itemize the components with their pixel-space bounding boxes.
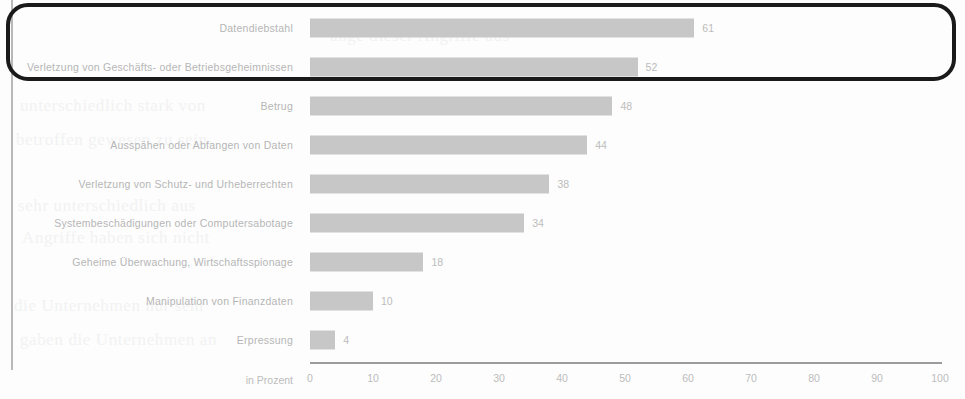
bar-row: Manipulation von Finanzdaten10 <box>0 281 965 320</box>
x-tick-label: 100 <box>931 372 949 384</box>
bar-value-label: 52 <box>646 61 658 73</box>
bar <box>310 291 373 310</box>
bar-track: 44 <box>310 135 940 154</box>
bar-value-label: 61 <box>702 22 714 34</box>
bar-track: 18 <box>310 252 940 271</box>
bar-category-label: Verletzung von Geschäfts- oder Betriebsg… <box>27 61 293 73</box>
x-tick-label: 90 <box>871 372 883 384</box>
bar-row: Verletzung von Geschäfts- oder Betriebsg… <box>0 47 965 86</box>
bar-value-label: 4 <box>343 334 349 346</box>
x-tick-label: 70 <box>745 372 757 384</box>
bar-category-label: Betrug <box>261 100 293 112</box>
bar <box>310 252 423 271</box>
bar-row: Datendiebstahl61 <box>0 8 965 47</box>
bar <box>310 18 694 37</box>
x-axis-title: in Prozent <box>246 374 293 386</box>
bar-track: 4 <box>310 330 940 349</box>
x-tick-label: 20 <box>430 372 442 384</box>
bar-category-label: Systembeschädigungen oder Computersabota… <box>54 217 293 229</box>
bar-row: Erpressung4 <box>0 320 965 359</box>
x-tick-label: 30 <box>493 372 505 384</box>
bar-track: 38 <box>310 174 940 193</box>
bar-track: 52 <box>310 57 940 76</box>
bar <box>310 330 335 349</box>
bar-chart: Datendiebstahl61Verletzung von Geschäfts… <box>0 0 965 399</box>
bar-category-label: Erpressung <box>237 334 293 346</box>
bar-row: Systembeschädigungen oder Computersabota… <box>0 203 965 242</box>
x-tick-label: 60 <box>682 372 694 384</box>
x-tick-label: 50 <box>619 372 631 384</box>
bar-category-label: Ausspähen oder Abfangen von Daten <box>110 139 293 151</box>
bar-row: Betrug48 <box>0 86 965 125</box>
bar <box>310 135 587 154</box>
x-tick-label: 80 <box>808 372 820 384</box>
bar-category-label: Geheime Überwachung, Wirtschaftsspionage <box>72 256 293 268</box>
bar <box>310 213 524 232</box>
bar-value-label: 18 <box>431 256 443 268</box>
bar-value-label: 10 <box>381 295 393 307</box>
bar-track: 48 <box>310 96 940 115</box>
bar-row: Ausspähen oder Abfangen von Daten44 <box>0 125 965 164</box>
x-axis-ticks: 0102030405060708090100 <box>310 372 940 390</box>
bar <box>310 174 549 193</box>
x-tick-label: 40 <box>556 372 568 384</box>
bar-category-label: Verletzung von Schutz- und Urheberrechte… <box>78 178 293 190</box>
bar-row-list: Datendiebstahl61Verletzung von Geschäfts… <box>0 8 965 359</box>
bar-value-label: 44 <box>595 139 607 151</box>
bar-track: 61 <box>310 18 940 37</box>
bar-value-label: 34 <box>532 217 544 229</box>
bar <box>310 96 612 115</box>
x-tick-label: 0 <box>307 372 313 384</box>
x-axis-line <box>310 362 942 364</box>
bar <box>310 57 638 76</box>
chart-page: ange dieser Angriffe aus unterschiedlich… <box>0 0 965 399</box>
bar-value-label: 48 <box>620 100 632 112</box>
bar-row: Verletzung von Schutz- und Urheberrechte… <box>0 164 965 203</box>
bar-category-label: Manipulation von Finanzdaten <box>146 295 293 307</box>
bar-row: Geheime Überwachung, Wirtschaftsspionage… <box>0 242 965 281</box>
bar-track: 34 <box>310 213 940 232</box>
bar-track: 10 <box>310 291 940 310</box>
bar-category-label: Datendiebstahl <box>219 22 293 34</box>
x-tick-label: 10 <box>367 372 379 384</box>
bar-value-label: 38 <box>557 178 569 190</box>
